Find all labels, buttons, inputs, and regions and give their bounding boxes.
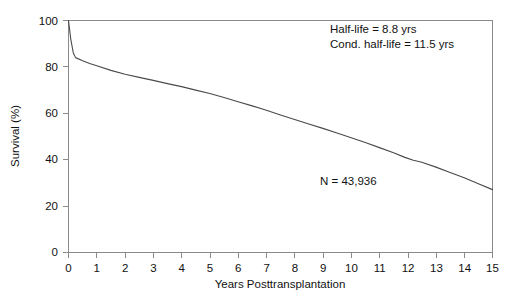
y-tick-label-0: 0 xyxy=(52,246,58,258)
plot-area-frame xyxy=(69,21,493,253)
x-tick-label-11: 11 xyxy=(374,262,386,274)
figure-container: 0 20 40 60 80 100 Survival (%) 0 xyxy=(0,0,514,307)
x-tick-label-0: 0 xyxy=(65,262,71,274)
survival-curve-chart: 0 20 40 60 80 100 Survival (%) 0 xyxy=(0,0,514,307)
x-tick-label-13: 13 xyxy=(430,262,443,274)
x-tick-label-5: 5 xyxy=(207,262,213,274)
x-tick-label-14: 14 xyxy=(458,262,471,274)
annotation-half-life: Half-life = 8.8 yrs xyxy=(330,23,417,35)
y-tick-label-40: 40 xyxy=(45,153,58,165)
y-axis-title: Survival (%) xyxy=(9,105,21,167)
x-tick-label-3: 3 xyxy=(150,262,156,274)
x-tick-label-4: 4 xyxy=(178,262,185,274)
x-tick-label-8: 8 xyxy=(292,262,298,274)
x-axis-ticks xyxy=(69,253,493,259)
annotation-sample-size: N = 43,936 xyxy=(320,175,377,187)
y-axis-ticks xyxy=(63,21,69,253)
x-tick-label-10: 10 xyxy=(345,262,358,274)
y-tick-label-100: 100 xyxy=(39,15,58,27)
x-tick-label-6: 6 xyxy=(235,262,241,274)
x-tick-label-15: 15 xyxy=(486,262,499,274)
x-tick-label-1: 1 xyxy=(94,262,100,274)
y-tick-label-60: 60 xyxy=(45,107,58,119)
annotation-cond-half-life: Cond. half-life = 11.5 yrs xyxy=(330,38,454,50)
y-tick-label-20: 20 xyxy=(45,200,58,212)
x-axis-title: Years Posttransplantation xyxy=(215,278,346,290)
x-tick-label-12: 12 xyxy=(402,262,415,274)
x-tick-label-9: 9 xyxy=(320,262,326,274)
y-tick-label-80: 80 xyxy=(45,61,58,73)
x-tick-label-7: 7 xyxy=(263,262,269,274)
x-tick-label-2: 2 xyxy=(122,262,128,274)
